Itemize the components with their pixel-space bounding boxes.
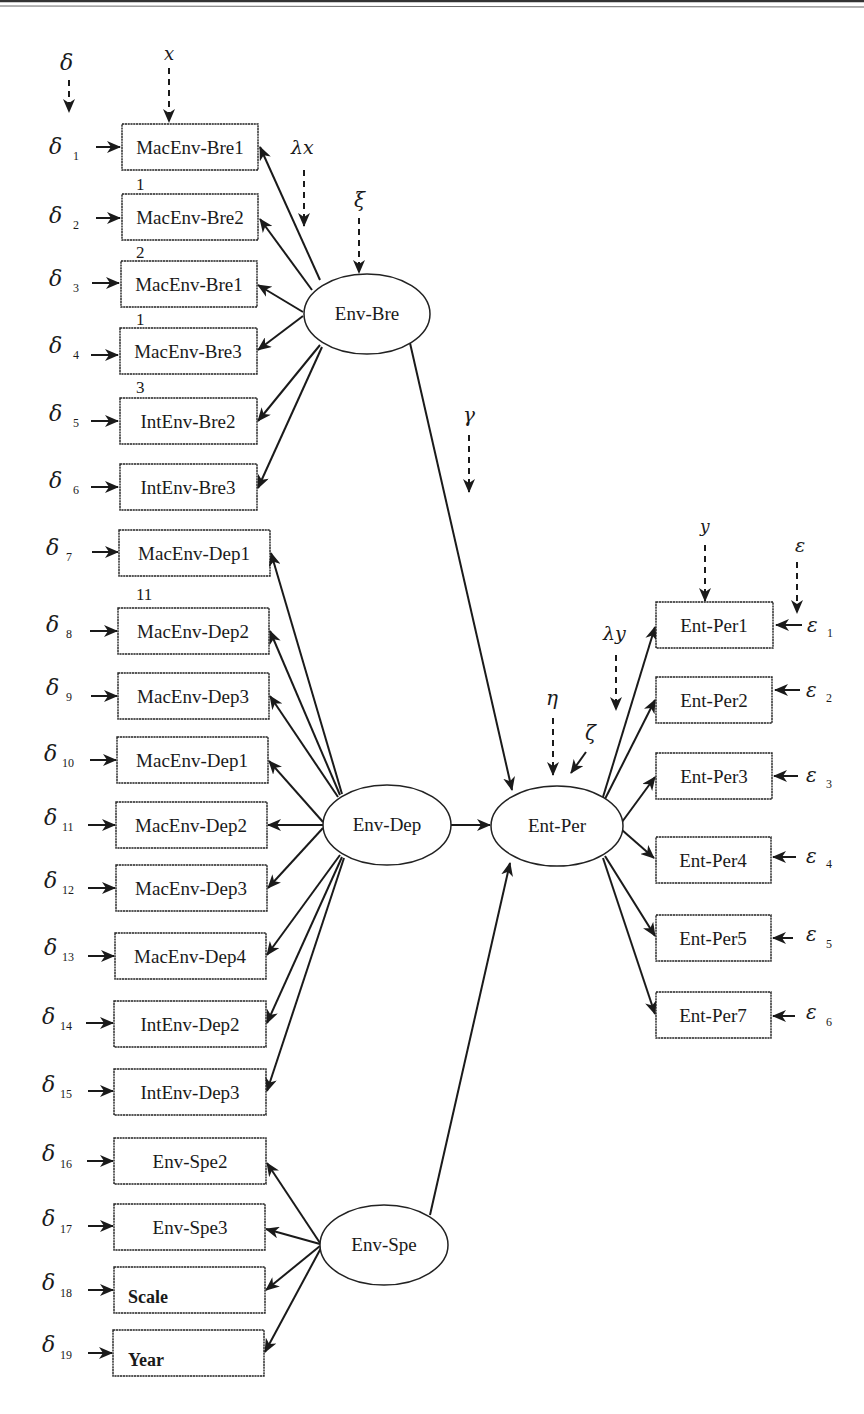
svg-text:IntEnv-Bre3: IntEnv-Bre3 xyxy=(141,477,236,498)
lambda-y-legend: λy xyxy=(602,622,626,710)
svg-text:5: 5 xyxy=(73,416,79,430)
svg-text:4: 4 xyxy=(73,348,79,362)
indicator-4: δ 4 MacEnv-Bre3 xyxy=(49,328,257,374)
svg-text:Env-Spe: Env-Spe xyxy=(351,1234,416,1255)
svg-text:ξ: ξ xyxy=(354,188,366,212)
indicator-13: δ 13 MacEnv-Dep4 xyxy=(44,933,266,979)
svg-text:IntEnv-Dep2: IntEnv-Dep2 xyxy=(140,1014,239,1035)
epsilon-legend: ε xyxy=(795,534,805,613)
svg-text:2: 2 xyxy=(826,691,832,705)
svg-text:Ent-Per2: Ent-Per2 xyxy=(680,690,748,711)
structural-paths xyxy=(410,343,512,1215)
indicator-3: δ 3 MacEnv-Bre1 xyxy=(49,261,257,307)
svg-text:δ: δ xyxy=(42,1004,55,1029)
indicator-6: δ 6 IntEnv-Bre3 xyxy=(49,464,257,510)
svg-text:IntEnv-Bre2: IntEnv-Bre2 xyxy=(141,411,236,432)
svg-text:15: 15 xyxy=(60,1087,72,1101)
stray-number: 3 xyxy=(136,378,145,397)
svg-text:4: 4 xyxy=(826,857,832,871)
svg-text:12: 12 xyxy=(62,883,74,897)
svg-text:3: 3 xyxy=(826,777,832,791)
svg-text:δ: δ xyxy=(49,266,62,291)
svg-text:δ: δ xyxy=(60,50,73,75)
delta-legend: δ xyxy=(60,50,73,112)
svg-text:ε: ε xyxy=(806,678,817,702)
svg-text:7: 7 xyxy=(66,550,72,564)
outcome-indicator-5: Ent-Per5 ε 5 xyxy=(656,915,832,961)
svg-text:δ: δ xyxy=(42,1332,55,1357)
stray-number: 11 xyxy=(136,585,152,604)
svg-text:9: 9 xyxy=(66,690,72,704)
stray-number: 1 xyxy=(136,310,145,329)
svg-text:MacEnv-Dep3: MacEnv-Dep3 xyxy=(137,686,249,707)
svg-text:11: 11 xyxy=(62,820,74,834)
indicator-7: δ 7 MacEnv-Dep1 xyxy=(46,530,270,576)
svg-text:17: 17 xyxy=(60,1222,72,1236)
zeta-legend: ζ xyxy=(571,721,597,773)
svg-text:19: 19 xyxy=(60,1348,72,1362)
svg-text:δ: δ xyxy=(49,203,62,228)
svg-text:Env-Bre: Env-Bre xyxy=(335,303,399,324)
gamma-legend: γ xyxy=(463,403,475,492)
indicator-10: δ 10 MacEnv-Dep1 xyxy=(44,737,268,783)
indicator-19: δ 19 Year xyxy=(42,1330,264,1376)
svg-text:δ: δ xyxy=(46,675,59,700)
svg-text:δ: δ xyxy=(49,333,62,358)
svg-text:16: 16 xyxy=(60,1157,72,1171)
svg-text:Env-Dep: Env-Dep xyxy=(353,814,422,835)
svg-text:δ: δ xyxy=(42,1141,55,1166)
indicator-15: δ 15 IntEnv-Dep3 xyxy=(42,1069,266,1115)
outcome-indicator-6: Ent-Per7 ε 6 xyxy=(656,992,832,1038)
indicator-2: δ 2 MacEnv-Bre2 xyxy=(49,194,258,240)
svg-text:Ent-Per: Ent-Per xyxy=(528,815,587,836)
svg-text:λx: λx xyxy=(290,136,314,158)
svg-text:6: 6 xyxy=(826,1015,832,1029)
svg-text:δ: δ xyxy=(49,468,62,493)
svg-text:δ: δ xyxy=(44,741,57,766)
svg-text:δ: δ xyxy=(46,612,59,637)
svg-text:MacEnv-Dep2: MacEnv-Dep2 xyxy=(137,621,249,642)
latent-env-bre: Env-Bre xyxy=(304,274,430,354)
svg-text:ε: ε xyxy=(807,613,818,637)
svg-text:ε: ε xyxy=(795,534,805,556)
outcome-indicator-2: Ent-Per2 ε 2 xyxy=(656,677,832,723)
svg-text:MacEnv-Bre1: MacEnv-Bre1 xyxy=(136,137,244,158)
svg-text:δ: δ xyxy=(42,1206,55,1231)
svg-text:Scale: Scale xyxy=(128,1287,168,1307)
lambda-x-legend: λx xyxy=(290,136,314,226)
svg-text:Year: Year xyxy=(128,1350,164,1370)
svg-text:y: y xyxy=(699,516,710,536)
sem-diagram: δ x λx ξ γ η ζ y λy ε δ 1 xyxy=(0,0,864,1414)
svg-text:γ: γ xyxy=(463,403,475,427)
indicator-8: δ 8 MacEnv-Dep2 xyxy=(46,608,269,654)
top-rule xyxy=(0,1,864,7)
svg-text:x: x xyxy=(164,43,174,64)
svg-text:ε: ε xyxy=(806,844,817,868)
svg-text:13: 13 xyxy=(62,950,74,964)
svg-text:Env-Spe2: Env-Spe2 xyxy=(153,1151,228,1172)
svg-text:Ent-Per3: Ent-Per3 xyxy=(680,766,748,787)
indicator-11: δ 11 MacEnv-Dep2 xyxy=(44,802,267,848)
latent-ent-per: Ent-Per xyxy=(491,786,623,866)
indicator-14: δ 14 IntEnv-Dep2 xyxy=(42,1001,266,1047)
svg-text:δ: δ xyxy=(49,134,62,159)
outcome-indicator-4: Ent-Per4 ε 4 xyxy=(656,837,832,883)
svg-text:Ent-Per5: Ent-Per5 xyxy=(679,928,747,949)
eta-legend: η xyxy=(546,686,558,775)
outcome-indicator-3: Ent-Per3 ε 3 xyxy=(656,753,832,799)
svg-text:5: 5 xyxy=(826,937,832,951)
svg-text:Env-Spe3: Env-Spe3 xyxy=(153,1217,228,1238)
svg-text:ε: ε xyxy=(806,1000,817,1024)
xi-legend: ξ xyxy=(354,188,366,273)
svg-text:MacEnv-Bre3: MacEnv-Bre3 xyxy=(134,341,242,362)
y-legend: y xyxy=(699,516,710,601)
indicator-16: δ 16 Env-Spe2 xyxy=(42,1138,266,1184)
svg-text:MacEnv-Dep1: MacEnv-Dep1 xyxy=(136,750,248,771)
svg-text:1: 1 xyxy=(73,149,79,163)
svg-text:IntEnv-Dep3: IntEnv-Dep3 xyxy=(140,1082,239,1103)
svg-text:λy: λy xyxy=(602,622,626,644)
svg-text:ε: ε xyxy=(806,922,817,946)
svg-text:η: η xyxy=(546,686,558,710)
svg-text:14: 14 xyxy=(60,1019,72,1033)
svg-text:MacEnv-Dep2: MacEnv-Dep2 xyxy=(135,815,247,836)
